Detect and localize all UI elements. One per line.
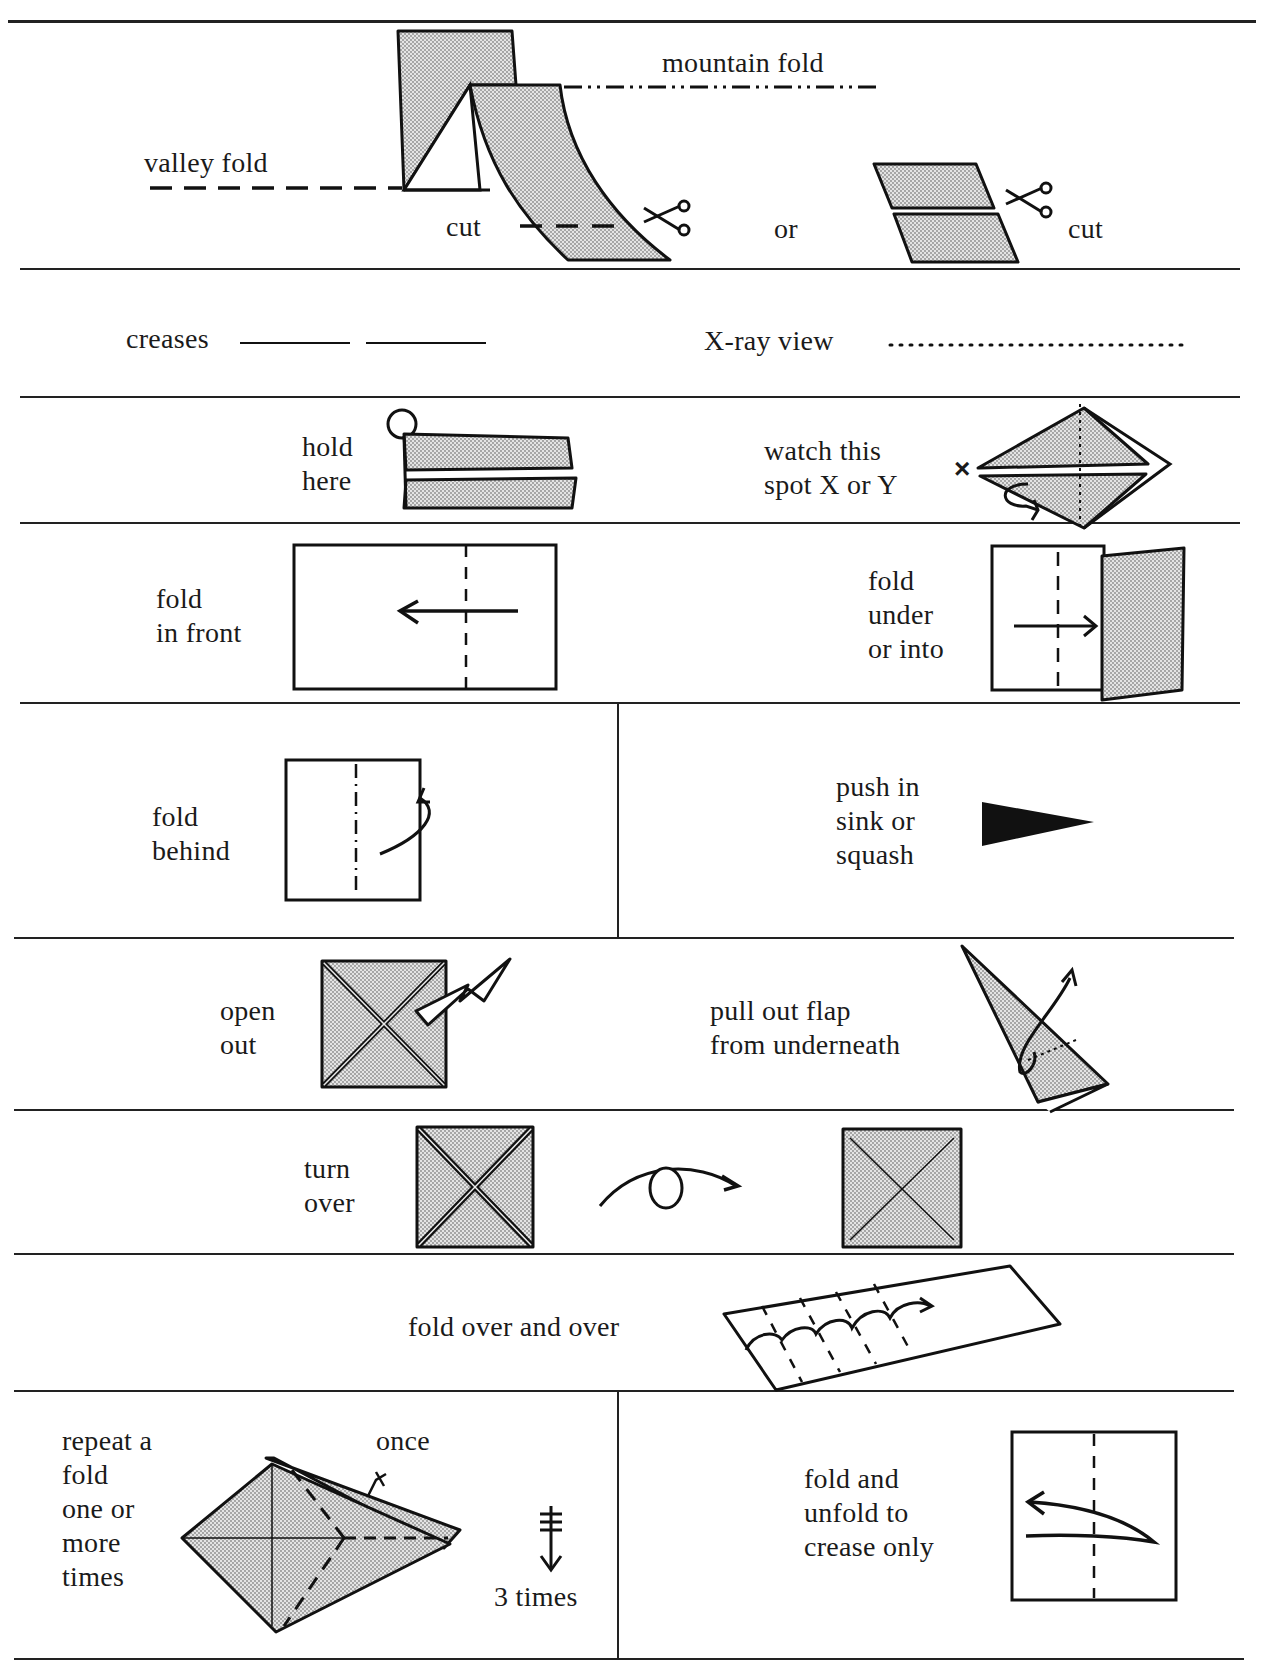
fold-under-diagram [990, 544, 1190, 704]
turn-over-after-diagram [840, 1126, 966, 1252]
divider-7 [14, 1253, 1234, 1255]
repeat-fold-diagram [180, 1450, 470, 1630]
pull-out-flap-diagram [958, 942, 1168, 1117]
column-divider-r9 [617, 1391, 619, 1658]
label-watch-spot: watch this spot X or Y [764, 434, 898, 502]
open-out-diagram [320, 955, 520, 1095]
label-open-out: open out [220, 994, 276, 1062]
label-repeat-fold: repeat a fold one or more times [62, 1424, 152, 1594]
push-in-arrow-icon [980, 800, 1100, 850]
label-fold-in-front: fold in front [156, 582, 242, 650]
fold-behind-diagram [284, 758, 464, 904]
divider-bottom [14, 1658, 1244, 1660]
label-xray-view: X-ray view [704, 324, 834, 358]
fold-over-and-over-diagram [720, 1262, 1080, 1392]
watch-spot-diagram [976, 404, 1176, 534]
label-fold-and-unfold: fold and unfold to crease only [804, 1462, 934, 1564]
label-cut-right: cut [1068, 212, 1103, 246]
label-push-in: push in sink or squash [836, 770, 920, 872]
fold-and-unfold-diagram [1010, 1430, 1180, 1604]
label-creases: creases [126, 322, 209, 356]
turn-over-before-diagram [414, 1124, 540, 1252]
turn-over-arrow-icon [596, 1156, 746, 1216]
label-three-times: 3 times [494, 1580, 578, 1614]
scissors-icon [640, 198, 700, 248]
label-hold-here: hold here [302, 430, 353, 498]
valley-mountain-fold-diagram [140, 25, 880, 265]
label-pull-out-flap: pull out flap from underneath [710, 994, 900, 1062]
label-fold-behind: fold behind [152, 800, 230, 868]
divider-top [8, 20, 1256, 23]
xray-dotted-line-sample [888, 342, 1188, 348]
hold-here-diagram [386, 408, 586, 508]
crease-line-sample [238, 340, 488, 346]
divider-5 [14, 937, 1234, 939]
column-divider-r5 [617, 703, 619, 937]
x-mark: × [954, 452, 971, 486]
label-turn-over: turn over [304, 1152, 355, 1220]
divider-2 [20, 396, 1240, 398]
fold-in-front-diagram [292, 543, 558, 691]
scissors-icon-right [1002, 180, 1062, 230]
label-fold-under: fold under or into [868, 564, 944, 666]
label-fold-over-and-over: fold over and over [408, 1310, 619, 1344]
repeat-three-times-arrow-icon [536, 1504, 566, 1574]
